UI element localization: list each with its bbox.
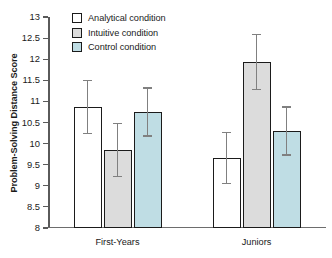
error-bar-cap-top	[113, 123, 122, 124]
y-tick	[43, 164, 48, 165]
y-tick-label: 13	[0, 12, 40, 21]
y-tick-label: 12	[0, 54, 40, 63]
error-bar-cap-top	[222, 132, 231, 133]
error-bar-cap-bottom	[252, 89, 261, 90]
error-bar	[256, 35, 257, 90]
y-tick	[43, 38, 48, 39]
y-tick-label: 10	[0, 139, 40, 148]
error-bar-cap-top	[143, 87, 152, 88]
y-tick	[43, 101, 48, 102]
y-tick	[43, 122, 48, 123]
y-tick	[43, 80, 48, 81]
y-tick	[43, 185, 48, 186]
y-tick-label: 9.5	[0, 160, 40, 169]
error-bar	[117, 123, 118, 176]
plot-area: 1312.51211.51110.5109.598.58 First-Years…	[48, 17, 326, 228]
x-axis-group-label: Juniors	[197, 237, 317, 247]
error-bar	[87, 80, 88, 133]
error-bar	[226, 132, 227, 183]
y-tick-label: 11.5	[0, 75, 40, 84]
y-tick	[43, 16, 48, 17]
y-tick-label: 8.5	[0, 202, 40, 211]
error-bar-cap-bottom	[222, 183, 231, 184]
error-bar-cap-top	[282, 106, 291, 107]
x-axis-group-label: First-Years	[58, 237, 178, 247]
y-tick-label: 12.5	[0, 33, 40, 42]
y-tick-label: 8	[0, 223, 40, 232]
bar-chart-figure: Problem-Solving Distance Score Analytica…	[0, 0, 332, 258]
error-bar-cap-bottom	[113, 176, 122, 177]
error-bar-cap-top	[83, 80, 92, 81]
error-bar	[147, 88, 148, 136]
y-axis-line	[48, 17, 50, 228]
y-tick	[43, 143, 48, 144]
y-tick-label: 9	[0, 181, 40, 190]
error-bar-cap-bottom	[83, 133, 92, 134]
error-bar-cap-bottom	[282, 154, 291, 155]
error-bar	[286, 107, 287, 155]
error-bar-cap-bottom	[143, 135, 152, 136]
y-tick	[43, 227, 48, 228]
y-tick-label: 11	[0, 96, 40, 105]
y-tick-label: 10.5	[0, 118, 40, 127]
y-tick	[43, 59, 48, 60]
y-tick	[43, 206, 48, 207]
error-bar-cap-top	[252, 34, 261, 35]
